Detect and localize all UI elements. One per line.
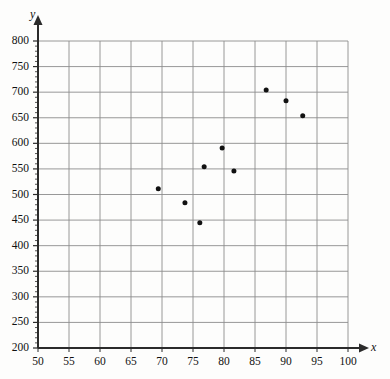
data-point bbox=[231, 168, 236, 173]
y-axis-tick-label: 200 bbox=[0, 342, 29, 354]
x-axis-tick-label: 50 bbox=[32, 356, 44, 368]
y-axis-tick-label: 250 bbox=[0, 317, 29, 329]
x-axis-tick-label: 60 bbox=[94, 356, 106, 368]
x-axis-tick-label: 100 bbox=[339, 356, 356, 368]
data-point bbox=[156, 186, 161, 191]
plot-canvas bbox=[0, 0, 390, 379]
y-axis-tick-label: 750 bbox=[0, 61, 29, 73]
y-axis-tick-label: 500 bbox=[0, 189, 29, 201]
data-point bbox=[300, 113, 305, 118]
data-point bbox=[264, 88, 269, 93]
x-axis-tick-label: 75 bbox=[187, 356, 199, 368]
x-axis-arrowhead bbox=[359, 344, 369, 353]
y-axis-tick-label: 350 bbox=[0, 266, 29, 278]
y-axis-tick-label: 450 bbox=[0, 214, 29, 226]
data-point bbox=[284, 98, 289, 103]
y-axis-tick-label: 300 bbox=[0, 291, 29, 303]
y-axis-tick-label: 650 bbox=[0, 112, 29, 124]
data-point bbox=[182, 200, 187, 205]
y-axis-tick-label: 600 bbox=[0, 138, 29, 150]
x-axis-label: x bbox=[371, 341, 376, 353]
x-axis-tick-label: 65 bbox=[125, 356, 137, 368]
y-axis-tick-label: 550 bbox=[0, 163, 29, 175]
y-axis-tick-label: 400 bbox=[0, 240, 29, 252]
data-point bbox=[220, 145, 225, 150]
data-point bbox=[197, 220, 202, 225]
data-point bbox=[202, 164, 207, 169]
y-axis-tick-label: 800 bbox=[0, 35, 29, 47]
x-axis-tick-label: 95 bbox=[311, 356, 323, 368]
x-axis-tick-label: 90 bbox=[280, 356, 292, 368]
y-axis-label: y bbox=[30, 8, 35, 20]
y-axis-tick-label: 700 bbox=[0, 86, 29, 98]
x-axis-tick-label: 85 bbox=[249, 356, 261, 368]
x-axis-tick-label: 70 bbox=[156, 356, 168, 368]
scatter-plot-figure: 2002503003504004505005506006507007508005… bbox=[0, 0, 390, 379]
x-axis-tick-label: 80 bbox=[218, 356, 230, 368]
x-axis-tick-label: 55 bbox=[63, 356, 75, 368]
